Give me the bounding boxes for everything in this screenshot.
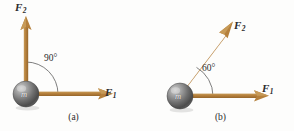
physics-force-diagram: F1 F2 90° m (a): [0, 0, 294, 131]
panel-b: F1 F2 60° m (b): [147, 0, 294, 131]
panel-a: F1 F2 90° m (a): [0, 0, 147, 131]
panel-caption-a: (a): [0, 112, 147, 122]
force-label-f1-a: F1: [105, 86, 117, 100]
force-label-f1-b: F1: [262, 82, 274, 96]
panel-caption-b: (b): [147, 112, 294, 122]
mass-label-b: m: [175, 91, 181, 101]
angle-label-b: 60°: [202, 63, 215, 73]
angle-label-a: 90°: [44, 53, 57, 63]
mass-label-a: m: [21, 89, 27, 99]
vector-f1-b: [180, 90, 269, 101]
force-label-f2-b: F2: [234, 19, 246, 33]
force-label-f2-a: F2: [15, 1, 27, 15]
